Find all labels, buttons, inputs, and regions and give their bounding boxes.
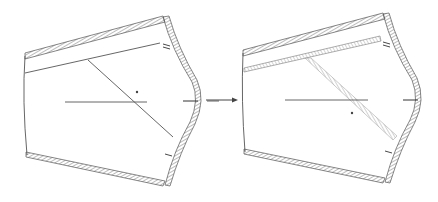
bottom-hatched-edge bbox=[26, 152, 165, 186]
bottom-hatched-edge bbox=[244, 149, 385, 183]
hatched-diagonal bbox=[305, 58, 397, 140]
top-hatched-edge bbox=[243, 13, 385, 56]
pattern-diagram bbox=[0, 0, 438, 202]
marker-dot bbox=[351, 112, 353, 114]
top-hatched-edge bbox=[25, 16, 165, 59]
right-curved-hatched-edge bbox=[383, 13, 421, 183]
notch-mark bbox=[383, 42, 390, 44]
notch-mark bbox=[163, 47, 170, 49]
transformation-arrow-icon bbox=[206, 98, 238, 103]
hatched-band bbox=[244, 36, 381, 72]
after-pattern-piece bbox=[242, 13, 421, 183]
diagram-canvas bbox=[0, 0, 438, 202]
before-pattern-piece bbox=[24, 16, 219, 186]
marker-dot bbox=[136, 91, 138, 93]
notch-mark bbox=[163, 44, 170, 46]
notch-mark bbox=[165, 154, 172, 156]
notch-mark bbox=[385, 151, 392, 153]
notch-mark bbox=[383, 45, 390, 47]
left-edge bbox=[24, 56, 27, 155]
diagonal-line bbox=[88, 60, 173, 137]
